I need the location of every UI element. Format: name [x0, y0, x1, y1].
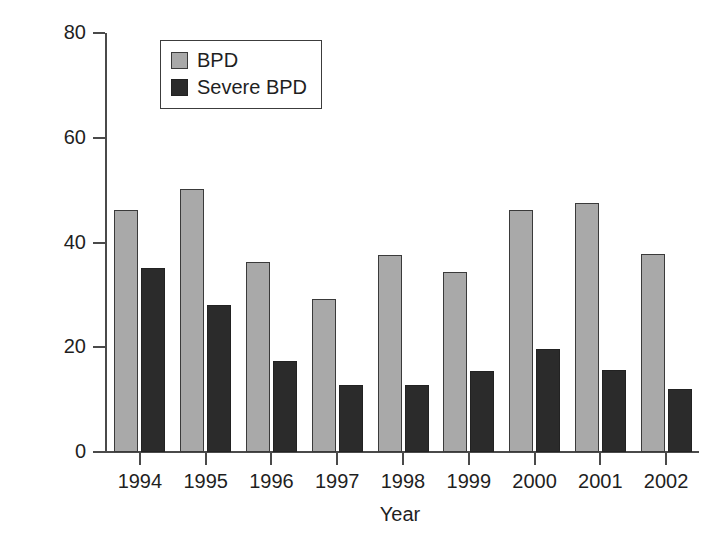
bar-1998-bpd [378, 255, 402, 452]
bar-chart: Incidence (%) 020406080 1994199519961997… [0, 0, 724, 550]
chart-legend: BPD Severe BPD [160, 40, 322, 109]
bar-1995-severe-bpd [207, 305, 231, 452]
bar-1997-bpd [312, 299, 336, 452]
bar-1996-severe-bpd [273, 361, 297, 452]
x-axis-tick-label: 1998 [368, 470, 438, 493]
y-axis-tick-label: 80 [0, 21, 86, 44]
bar-1997-severe-bpd [339, 385, 363, 452]
bar-1999-severe-bpd [470, 371, 494, 452]
bar-1998-severe-bpd [405, 385, 429, 452]
y-axis-tick-label: 60 [0, 126, 86, 149]
x-axis-tick [139, 453, 141, 465]
legend-label-severe-bpd: Severe BPD [197, 76, 307, 99]
bar-1996-bpd [246, 262, 270, 452]
x-axis-tick-label: 1994 [105, 470, 175, 493]
x-axis-tick-label: 2001 [565, 470, 635, 493]
y-axis-tick [93, 137, 105, 139]
x-axis-tick-label: 1995 [171, 470, 241, 493]
legend-item-severe-bpd: Severe BPD [171, 74, 307, 101]
bar-2000-severe-bpd [536, 349, 560, 452]
bar-1994-bpd [114, 210, 138, 452]
x-axis-tick-label: 2000 [500, 470, 570, 493]
x-axis-tick-label: 1997 [302, 470, 372, 493]
bar-2002-bpd [641, 254, 665, 452]
x-axis-tick-label: 1996 [236, 470, 306, 493]
legend-swatch-bpd-icon [171, 52, 188, 69]
x-axis-tick [665, 453, 667, 465]
y-axis-tick [93, 32, 105, 34]
y-axis-tick [93, 242, 105, 244]
legend-label-bpd: BPD [197, 49, 238, 72]
y-axis-tick-label: 20 [0, 335, 86, 358]
y-axis-tick-label: 40 [0, 231, 86, 254]
bar-2002-severe-bpd [668, 389, 692, 452]
bar-1994-severe-bpd [141, 268, 165, 452]
x-axis-tick [336, 453, 338, 465]
legend-item-bpd: BPD [171, 47, 307, 74]
bar-2001-severe-bpd [602, 370, 626, 452]
x-axis-tick [599, 453, 601, 465]
x-axis-tick-label: 2002 [631, 470, 701, 493]
bar-2000-bpd [509, 210, 533, 452]
x-axis-tick [270, 453, 272, 465]
x-axis-tick-label: 1999 [434, 470, 504, 493]
x-axis-tick [205, 453, 207, 465]
y-axis-tick [93, 451, 105, 453]
x-axis-tick [534, 453, 536, 465]
bar-1995-bpd [180, 189, 204, 452]
x-axis-tick [402, 453, 404, 465]
bar-2001-bpd [575, 203, 599, 452]
y-axis-tick-label: 0 [0, 440, 86, 463]
x-axis-tick [468, 453, 470, 465]
x-axis-title: Year [100, 503, 700, 526]
legend-swatch-severe-bpd-icon [171, 79, 188, 96]
bar-1999-bpd [443, 272, 467, 452]
y-axis-tick [93, 346, 105, 348]
